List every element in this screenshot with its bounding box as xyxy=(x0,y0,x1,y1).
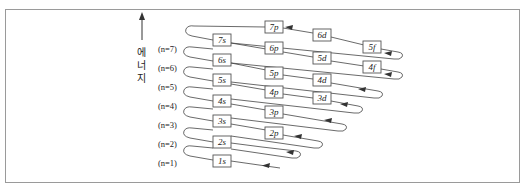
left-loop-6 xyxy=(184,47,213,61)
orbital-7s: 7s xyxy=(213,34,231,46)
shell-label-n7: (n=7) xyxy=(158,44,177,54)
shell-label-n1: (n=1) xyxy=(158,158,177,168)
orbital-label: 3d xyxy=(317,93,328,103)
orbital-4s: 4s xyxy=(213,95,231,107)
orbital-5s: 5s xyxy=(213,74,231,86)
orbital-3p: 3p xyxy=(265,106,283,118)
orbital-label: 6s xyxy=(218,55,227,65)
orbital-3s: 3s xyxy=(213,115,231,127)
orbital-5f: 5f xyxy=(363,41,381,53)
energy-label-char-1: 에 xyxy=(137,47,146,58)
orbital-4f: 4f xyxy=(363,61,381,73)
left-loop-2 xyxy=(184,128,213,142)
orbital-label: 5p xyxy=(270,68,280,78)
orbital-7p: 7p xyxy=(265,21,283,33)
orbital-label: 6d xyxy=(318,30,328,40)
orbital-5p: 5p xyxy=(265,67,283,79)
shell-label-n6: (n=6) xyxy=(158,63,177,73)
orbital-label: 2p xyxy=(270,128,280,138)
orbital-label: 4d xyxy=(318,75,328,85)
diagonal-6s-5p-4d xyxy=(231,63,383,98)
orbital-label: 1s xyxy=(218,156,227,166)
orbital-6d: 6d xyxy=(313,29,331,41)
left-loop-5 xyxy=(184,67,213,81)
left-loop-1 xyxy=(184,146,213,160)
energy-label-char-3: 지 xyxy=(137,73,146,84)
arrow-icon xyxy=(384,72,392,77)
orbital-label: 5s xyxy=(218,75,227,85)
orbital-label: 7p xyxy=(270,22,280,32)
orbital-2p: 2p xyxy=(265,127,283,139)
left-loop-4 xyxy=(184,87,213,101)
aufbau-diagram: 에 너 지 (n=7) (n=6) (n=5) (n=4) (n=3) (n=2… xyxy=(0,0,526,187)
orbital-3d: 3d xyxy=(313,92,331,104)
diagonal-2s xyxy=(231,143,301,158)
left-loop-3 xyxy=(184,107,213,121)
orbital-label: 2s xyxy=(218,137,227,147)
orbital-label: 3s xyxy=(217,116,227,126)
energy-arrow-head-icon xyxy=(139,12,145,20)
orbital-4p: 4p xyxy=(265,86,283,98)
arrow-icon xyxy=(262,163,270,168)
orbital-label: 6p xyxy=(270,43,280,53)
orbital-2s: 2s xyxy=(213,136,231,148)
energy-label-char-2: 너 xyxy=(137,60,146,71)
arrow-icon xyxy=(324,118,332,123)
arrow-icon xyxy=(286,150,294,155)
shell-label-n2: (n=2) xyxy=(158,139,177,149)
orbital-label: 3p xyxy=(269,107,280,117)
orbital-6s: 6s xyxy=(213,54,231,66)
diagonal-1s xyxy=(231,161,280,168)
orbital-label: 4p xyxy=(270,87,280,97)
diagonal-5s-4p-3d xyxy=(231,84,363,113)
orbital-6p: 6p xyxy=(265,42,283,54)
orbital-1s: 1s xyxy=(213,155,231,167)
shell-label-n5: (n=5) xyxy=(158,82,177,92)
shell-labels: (n=7) (n=6) (n=5) (n=4) (n=3) (n=2) (n=1… xyxy=(158,44,177,168)
orbital-label: 4s xyxy=(218,96,227,106)
arrow-icon xyxy=(384,51,392,56)
orbital-5d: 5d xyxy=(313,52,331,64)
orbital-label: 7s xyxy=(218,35,227,45)
shell-label-n3: (n=3) xyxy=(158,120,177,130)
orbital-4d: 4d xyxy=(313,74,331,86)
shell-label-n4: (n=4) xyxy=(158,101,177,111)
orbital-label: 5d xyxy=(318,53,328,63)
arrow-icon xyxy=(294,134,302,139)
energy-axis: 에 너 지 xyxy=(137,12,146,84)
